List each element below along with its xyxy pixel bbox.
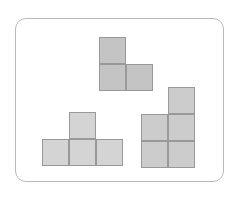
shape-cell[interactable] [69, 139, 96, 166]
shape-cell[interactable] [168, 114, 195, 141]
shape-cell[interactable] [141, 114, 168, 141]
shape-cell[interactable] [126, 64, 153, 91]
shape-cell[interactable] [96, 139, 123, 166]
shape-cell[interactable] [141, 141, 168, 168]
shape-diagram-canvas [0, 0, 240, 200]
shape-cell[interactable] [168, 87, 195, 114]
shape-cell[interactable] [99, 64, 126, 91]
shape-cell[interactable] [168, 141, 195, 168]
shape-cell[interactable] [69, 112, 96, 139]
shape-cell[interactable] [99, 37, 126, 64]
shape-cell[interactable] [42, 139, 69, 166]
